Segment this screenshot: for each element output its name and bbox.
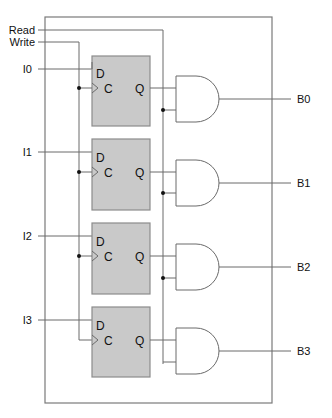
input-label-i1: I1 (23, 146, 32, 158)
cell-1: I1 D C Q B1 (23, 139, 311, 210)
pin-q: Q (135, 250, 144, 264)
junction-dot (161, 108, 165, 112)
output-label-b0: B0 (297, 93, 310, 105)
junction-dot (77, 86, 81, 90)
pin-d: D (96, 319, 105, 333)
pin-c: C (104, 82, 113, 96)
output-label-b2: B2 (297, 261, 310, 273)
write-wire (38, 42, 92, 340)
pin-c: C (104, 334, 113, 348)
input-label-i3: I3 (23, 314, 32, 326)
pin-c: C (104, 250, 113, 264)
and-gate-2 (176, 244, 219, 290)
write-label: Write (10, 36, 35, 48)
pin-q: Q (135, 82, 144, 96)
input-label-i2: I2 (23, 230, 32, 242)
pin-d: D (96, 67, 105, 81)
junction-dot (161, 276, 165, 280)
cell-0: I0 D C Q B0 (23, 56, 311, 126)
cell-3: I3 D C Q B3 (23, 307, 311, 377)
junction-dot (77, 254, 81, 258)
input-label-i0: I0 (23, 63, 32, 75)
register-diagram: Read Write I0 D C Q B0 I1 D C Q (0, 0, 332, 418)
and-gate-3 (176, 328, 219, 374)
junction-dot (77, 170, 81, 174)
pin-c: C (104, 166, 113, 180)
cell-2: I2 D C Q B2 (23, 223, 311, 294)
output-label-b3: B3 (297, 345, 310, 357)
junction-dot (161, 191, 165, 195)
output-label-b1: B1 (297, 177, 310, 189)
read-label: Read (9, 24, 35, 36)
and-gate-0 (176, 76, 219, 122)
and-gate-1 (176, 160, 219, 206)
pin-q: Q (135, 166, 144, 180)
pin-d: D (96, 235, 105, 249)
pin-d: D (96, 151, 105, 165)
pin-q: Q (135, 334, 144, 348)
